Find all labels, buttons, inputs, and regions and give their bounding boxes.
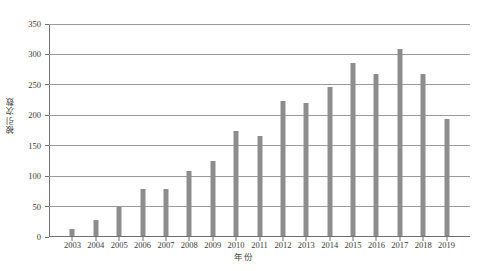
plot-area	[49, 24, 470, 237]
y-axis-tick-label: 50	[0, 202, 41, 211]
x-axis-title: 年份	[0, 253, 487, 262]
bar	[327, 87, 332, 236]
y-axis-tick-label: 300	[0, 50, 41, 59]
bar	[351, 63, 356, 236]
y-axis-tick-label: 100	[0, 172, 41, 181]
bar	[374, 74, 379, 236]
bar	[280, 101, 285, 236]
bar	[210, 161, 215, 236]
x-axis-tick-label: 2010	[228, 241, 245, 250]
gridline	[49, 115, 470, 116]
bar	[444, 119, 449, 236]
gridline	[49, 24, 470, 25]
bar-chart-figure: 被引次数 20032004200520062007200820092010201…	[0, 0, 487, 271]
x-axis-tick-label: 2012	[274, 241, 291, 250]
x-axis-tick-label: 2007	[157, 241, 174, 250]
y-axis-tick	[45, 176, 49, 177]
y-axis-tick	[45, 145, 49, 146]
bar	[397, 49, 402, 236]
y-axis-tick-label: 350	[0, 20, 41, 29]
y-axis-tick	[45, 115, 49, 116]
x-axis-tick-label: 2017	[391, 241, 408, 250]
bar	[304, 103, 309, 236]
x-axis-tick-label: 2006	[134, 241, 151, 250]
x-axis-tick-label: 2004	[87, 241, 104, 250]
bar	[117, 207, 122, 236]
x-axis-tick-label: 2015	[345, 241, 362, 250]
x-axis-tick-label: 2018	[415, 241, 432, 250]
y-axis-tick	[45, 54, 49, 55]
bar	[140, 189, 145, 236]
y-axis-tick-label: 200	[0, 111, 41, 120]
y-axis-tick	[45, 84, 49, 85]
bar	[163, 189, 168, 236]
x-axis-tick-label: 2016	[368, 241, 385, 250]
x-axis-tick-label: 2011	[251, 241, 268, 250]
x-axis-tick-label: 2013	[298, 241, 315, 250]
y-axis-tick	[45, 206, 49, 207]
y-axis-line	[49, 24, 50, 237]
y-axis-tick	[45, 237, 49, 238]
y-axis-tick-label: 0	[0, 233, 41, 242]
bar	[187, 171, 192, 236]
x-axis-tick-label: 2008	[181, 241, 198, 250]
x-axis-tick-label: 2009	[204, 241, 221, 250]
y-axis-tick-label: 250	[0, 81, 41, 90]
x-axis-tick-label: 2005	[111, 241, 128, 250]
bar	[234, 131, 239, 236]
bar	[70, 229, 75, 236]
bar	[93, 220, 98, 236]
bar	[257, 136, 262, 236]
x-axis-tick-label: 2003	[64, 241, 81, 250]
bar	[421, 74, 426, 236]
gridline	[49, 84, 470, 85]
gridline	[49, 54, 470, 55]
y-axis-tick	[45, 24, 49, 25]
x-axis-tick-label: 2014	[321, 241, 338, 250]
x-axis-tick-label: 2019	[438, 241, 455, 250]
y-axis-tick-label: 150	[0, 141, 41, 150]
